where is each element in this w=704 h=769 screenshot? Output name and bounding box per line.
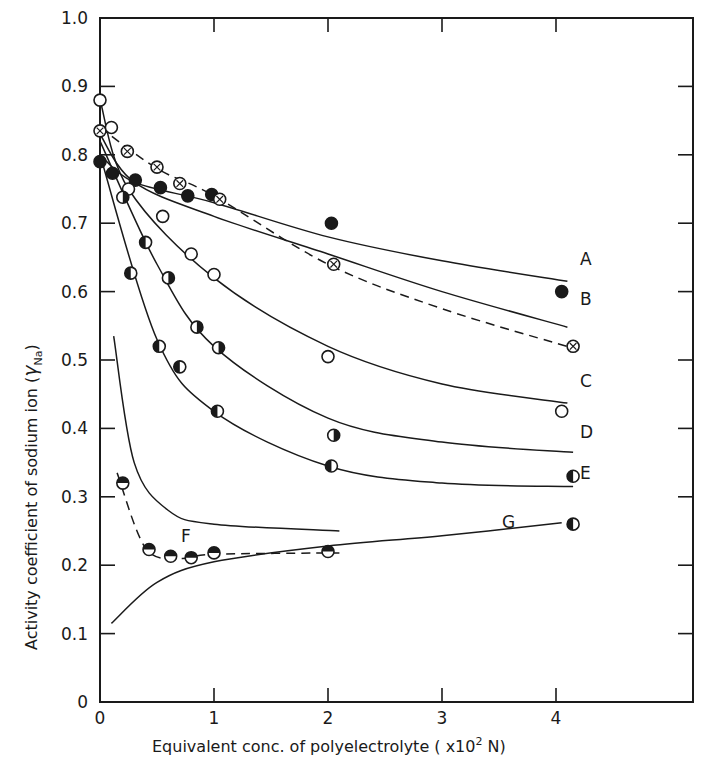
- curve-d: [100, 141, 573, 452]
- data-point-marker: [556, 405, 568, 417]
- series-labels: A B C D E F G: [181, 249, 593, 546]
- x-axis-label-sup: 2: [475, 735, 482, 748]
- curves: [100, 100, 579, 623]
- data-point-marker: [214, 193, 226, 205]
- data-point-marker: [185, 248, 197, 260]
- data-point-marker: [174, 178, 186, 190]
- data-point-marker: [165, 550, 177, 562]
- data-point-marker: [154, 182, 166, 194]
- data-point-marker: [567, 518, 579, 530]
- y-axis-label: Activity coefficient of sodium ion (γNa): [19, 344, 45, 650]
- plot-border: [100, 18, 693, 702]
- curve-f-upper-solid-: [114, 336, 340, 531]
- data-point-marker: [117, 191, 129, 203]
- data-point-marker: [143, 543, 155, 555]
- x-axis-label-text: Equivalent conc. of polyelectrolyte ( x1…: [152, 737, 475, 756]
- data-point-marker: [208, 269, 220, 281]
- curve-b: [100, 127, 579, 349]
- data-point-marker: [174, 361, 186, 373]
- data-point-marker: [208, 547, 220, 559]
- tick-labels: 0123400.10.20.30.40.50.60.70.80.91.0: [61, 8, 561, 728]
- x-tick-label: 3: [437, 708, 448, 728]
- data-point-marker: [94, 156, 106, 168]
- data-point-marker: [567, 470, 579, 482]
- x-tick-label: 4: [551, 708, 562, 728]
- series-label-a: A: [580, 249, 592, 269]
- y-tick-label: 0.4: [61, 418, 88, 438]
- data-point-marker: [94, 94, 106, 106]
- data-point-marker: [151, 161, 163, 173]
- data-point-marker: [153, 340, 165, 352]
- data-point-marker: [567, 340, 579, 352]
- y-tick-label: 1.0: [61, 8, 88, 28]
- data-point-marker: [191, 321, 203, 333]
- series-label-c: C: [580, 371, 592, 391]
- data-point-marker: [328, 258, 340, 270]
- data-point-marker: [325, 217, 337, 229]
- x-tick-label: 0: [95, 708, 106, 728]
- y-tick-label: 0.7: [61, 213, 88, 233]
- data-point-marker: [107, 167, 119, 179]
- y-tick-label: 0.9: [61, 76, 88, 96]
- y-axis-label-end: ): [22, 344, 41, 350]
- data-point-marker: [162, 272, 174, 284]
- y-tick-label: 0.1: [61, 624, 88, 644]
- svg-text:Equivalent conc. of polyelectr: Equivalent conc. of polyelectrolyte ( x1…: [152, 735, 506, 756]
- data-point-marker: [121, 145, 133, 157]
- series-label-f: F: [181, 526, 191, 546]
- y-tick-label: 0.3: [61, 487, 88, 507]
- chart-figure: 0123400.10.20.30.40.50.60.70.80.91.0 A B…: [0, 0, 704, 769]
- y-tick-label: 0.6: [61, 282, 88, 302]
- data-point-marker: [185, 552, 197, 564]
- data-point-marker: [105, 121, 117, 133]
- data-point-marker: [125, 267, 137, 279]
- data-point-marker: [325, 460, 337, 472]
- plot-frame: [100, 18, 693, 702]
- data-point-marker: [117, 477, 129, 489]
- curve-g: [111, 523, 561, 624]
- y-tick-label: 0.2: [61, 555, 88, 575]
- series-label-b: B: [580, 289, 592, 309]
- series-label-d: D: [580, 422, 593, 442]
- data-point-marker: [182, 190, 194, 202]
- data-point-marker: [94, 125, 106, 137]
- svg-text:Activity coefficient of sodium: Activity coefficient of sodium ion (γNa): [19, 344, 45, 650]
- data-point-marker: [328, 429, 340, 441]
- x-tick-label: 1: [209, 708, 220, 728]
- axis-ticks: [100, 18, 693, 702]
- data-point-marker: [322, 546, 334, 558]
- x-axis-label: Equivalent conc. of polyelectrolyte ( x1…: [152, 735, 506, 756]
- curve-b-solid-: [100, 134, 567, 327]
- y-tick-label: 0.8: [61, 145, 88, 165]
- series-label-e: E: [580, 463, 591, 483]
- x-tick-label: 2: [323, 708, 334, 728]
- data-point-marker: [322, 351, 334, 363]
- x-axis-label-end: N): [482, 737, 505, 756]
- data-point-marker: [140, 236, 152, 248]
- data-point-marker: [211, 405, 223, 417]
- data-point-marker: [157, 210, 169, 222]
- y-tick-label: 0: [77, 692, 88, 712]
- data-point-marker: [213, 342, 225, 354]
- y-axis-label-text: Activity coefficient of sodium ion (: [22, 377, 41, 650]
- data-point-marker: [556, 286, 568, 298]
- series-label-g: G: [502, 512, 515, 532]
- y-axis-label-sub: Na: [32, 351, 45, 366]
- y-tick-label: 0.5: [61, 350, 88, 370]
